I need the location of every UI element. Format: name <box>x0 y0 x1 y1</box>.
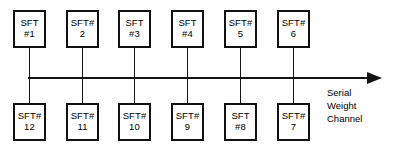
node-sft-8[interactable]: SFT#8 <box>224 103 257 141</box>
connector-sft-11 <box>82 77 84 103</box>
diagram-canvas: Serial Weight Channel SFT#1SFT#2SFT#3SFT… <box>0 0 394 150</box>
connector-sft-10 <box>134 77 136 103</box>
node-label-line-2: 7 <box>291 122 296 133</box>
connector-sft-8 <box>240 77 242 103</box>
node-sft-10[interactable]: SFT#10 <box>118 103 151 141</box>
node-sft-5[interactable]: SFT#5 <box>224 10 257 48</box>
connector-sft-6 <box>293 48 295 79</box>
node-sft-12[interactable]: SFT#12 <box>13 103 46 141</box>
serial-weight-channel-label: Serial Weight Channel <box>327 87 362 125</box>
bus-label-line-2: Weight <box>327 100 362 113</box>
node-label-line-2: #3 <box>129 29 140 40</box>
node-sft-4[interactable]: SFT#4 <box>171 10 204 48</box>
node-label-line-2: 12 <box>24 122 35 133</box>
node-label-line-2: #1 <box>24 29 35 40</box>
node-sft-1[interactable]: SFT#1 <box>13 10 46 48</box>
node-sft-9[interactable]: SFT#9 <box>171 103 204 141</box>
node-label-line-2: 9 <box>185 122 190 133</box>
connector-sft-1 <box>29 48 31 79</box>
node-label-line-2: #4 <box>182 29 193 40</box>
serial-bus-line <box>28 77 368 79</box>
node-sft-7[interactable]: SFT#7 <box>277 103 310 141</box>
connector-sft-3 <box>134 48 136 79</box>
arrow-right-icon <box>367 72 382 84</box>
node-sft-2[interactable]: SFT#2 <box>66 10 99 48</box>
connector-sft-2 <box>82 48 84 79</box>
node-label-line-2: 6 <box>291 29 296 40</box>
connector-sft-12 <box>29 77 31 103</box>
connector-sft-9 <box>187 77 189 103</box>
bus-label-line-1: Serial <box>327 87 362 100</box>
node-sft-3[interactable]: SFT#3 <box>118 10 151 48</box>
node-label-line-2: 5 <box>238 29 243 40</box>
node-label-line-2: 11 <box>77 122 87 133</box>
node-sft-6[interactable]: SFT#6 <box>277 10 310 48</box>
connector-sft-5 <box>240 48 242 79</box>
connector-sft-4 <box>187 48 189 79</box>
bus-label-line-3: Channel <box>327 113 362 126</box>
node-sft-11[interactable]: SFT#11 <box>66 103 99 141</box>
node-label-line-2: 10 <box>129 122 140 133</box>
node-label-line-2: #8 <box>235 122 246 133</box>
connector-sft-7 <box>293 77 295 103</box>
node-label-line-2: 2 <box>80 29 85 40</box>
